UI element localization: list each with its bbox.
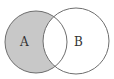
label-a: A bbox=[19, 35, 29, 49]
label-b: B bbox=[74, 35, 83, 49]
venn-diagram: A B bbox=[0, 0, 114, 79]
